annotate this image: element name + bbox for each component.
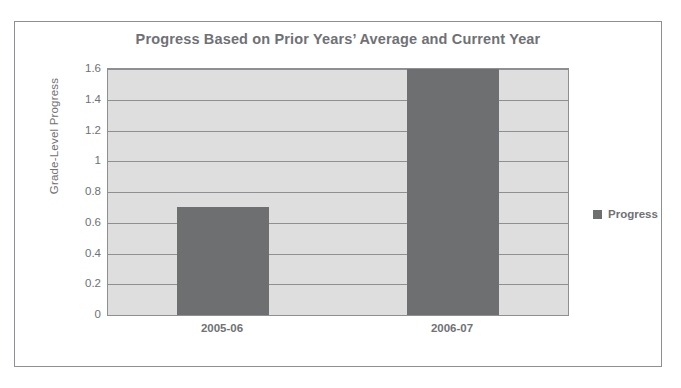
x-axis-tick-labels: 2005-062006-07 (107, 322, 569, 344)
y-tick-label: 1.2 (23, 124, 107, 136)
y-tick-label: 0.4 (23, 247, 107, 259)
gridline (108, 69, 568, 70)
y-tick-label: 0 (23, 308, 107, 320)
bar (177, 207, 269, 315)
x-tick-label: 2005-06 (201, 322, 243, 334)
plot-area (107, 68, 569, 316)
y-tick-label: 0.6 (23, 216, 107, 228)
legend-label-progress: Progress (608, 208, 658, 220)
gridline (108, 161, 568, 162)
gridline (108, 192, 568, 193)
legend-swatch-progress (593, 210, 602, 219)
y-tick-label: 1.4 (23, 93, 107, 105)
chart-title: Progress Based on Prior Years’ Average a… (15, 31, 661, 47)
y-tick-label: 1.6 (23, 62, 107, 74)
chart-legend: Progress (593, 208, 658, 220)
y-tick-label: 1 (23, 154, 107, 166)
y-tick-label: 0.8 (23, 185, 107, 197)
y-tick-label: 0.2 (23, 277, 107, 289)
scan-top-artifact (0, 0, 681, 12)
gridline (108, 100, 568, 101)
x-tick-label: 2006-07 (431, 322, 473, 334)
gridline (108, 131, 568, 132)
chart-frame: Progress Based on Prior Years’ Average a… (14, 21, 662, 367)
y-axis-tick-labels: 00.20.40.60.811.21.41.6 (15, 68, 107, 316)
bar (407, 68, 499, 315)
